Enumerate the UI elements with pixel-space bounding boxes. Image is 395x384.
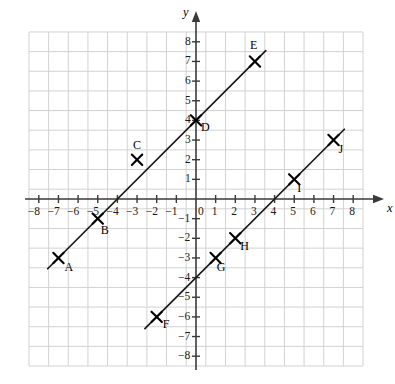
x-tick--1: −1: [165, 206, 177, 218]
x-tick-8: 8: [349, 206, 355, 218]
y-tick-1: 1: [185, 173, 191, 185]
point-label-i: I: [297, 182, 301, 194]
y-tick--4: −4: [178, 272, 190, 284]
y-tick-6: 6: [185, 75, 191, 87]
x-tick-5: 5: [290, 206, 296, 218]
point-label-g: G: [217, 261, 226, 273]
x-tick--6: −6: [67, 206, 79, 218]
origin-tick: 0: [198, 206, 204, 218]
x-tick--4: −4: [106, 206, 118, 218]
point-label-j: J: [339, 143, 344, 155]
y-tick-8: 8: [185, 36, 191, 48]
y-tick-3: 3: [185, 134, 191, 146]
x-tick-4: 4: [271, 206, 277, 218]
point-label-d: D: [201, 121, 210, 133]
y-tick-5: 5: [185, 95, 191, 107]
marker-C: [132, 155, 142, 165]
x-tick-1: 1: [212, 206, 218, 218]
point-label-f: F: [163, 318, 170, 330]
x-tick--5: −5: [87, 206, 99, 218]
x-tick--8: −8: [28, 206, 40, 218]
y-tick--2: −2: [178, 232, 190, 244]
x-tick--2: −2: [146, 206, 158, 218]
x-tick-6: 6: [310, 206, 316, 218]
marker-A: [53, 253, 63, 263]
x-tick-2: 2: [231, 206, 237, 218]
marker-J: [328, 135, 338, 145]
y-tick--6: −6: [178, 311, 190, 323]
point-label-h: H: [240, 240, 249, 252]
point-label-e: E: [250, 39, 257, 51]
y-axis-label: y: [183, 6, 189, 19]
y-tick--8: −8: [178, 350, 190, 362]
x-axis-label: x: [387, 202, 393, 215]
y-tick-4: 4: [185, 114, 191, 126]
marker-H: [230, 233, 240, 243]
x-tick--3: −3: [126, 206, 138, 218]
point-label-a: A: [64, 261, 73, 273]
y-tick--5: −5: [178, 291, 190, 303]
point-label-c: C: [133, 139, 141, 151]
marker-F: [152, 312, 162, 322]
coordinate-plane-graph: −8−7−6−5−4−3−2−1123456780−8−7−6−5−4−3−2−…: [0, 0, 395, 384]
x-tick--7: −7: [47, 206, 59, 218]
x-tick-7: 7: [330, 206, 336, 218]
y-tick-2: 2: [185, 154, 191, 166]
y-tick--7: −7: [178, 331, 190, 343]
point-label-b: B: [101, 224, 109, 236]
y-tick-7: 7: [185, 55, 191, 67]
axes: [25, 11, 384, 370]
y-tick--3: −3: [178, 252, 190, 264]
y-tick--1: −1: [178, 213, 190, 225]
marker-E: [250, 56, 260, 66]
plot-canvas: [0, 0, 395, 384]
x-tick-3: 3: [251, 206, 257, 218]
